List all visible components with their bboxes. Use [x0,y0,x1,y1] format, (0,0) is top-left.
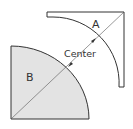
label-b: B [26,71,34,84]
label-center: Center [64,48,96,59]
label-a: A [92,18,100,31]
quarter-circle-diagram: A B Center [0,0,133,129]
